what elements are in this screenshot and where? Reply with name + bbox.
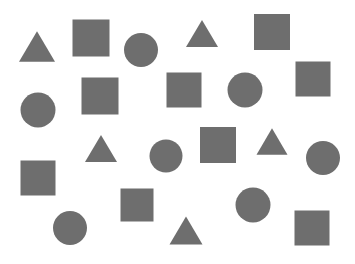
square-shape [254,14,290,50]
circle-shape [53,211,87,245]
triangle-shape [85,135,117,162]
square-shape [167,73,202,108]
circle-shape [236,188,271,223]
square-shape [73,20,110,57]
square-shape [296,62,331,97]
square-shape [21,161,56,196]
square-shape [200,127,236,163]
triangle-shape [19,31,55,62]
square-shape [295,211,330,246]
figure-canvas [0,0,355,264]
circle-shape [306,141,340,175]
circle-shape [228,73,263,108]
circle-shape [124,33,158,67]
shape-scatter-plot [0,0,355,264]
square-shape [121,189,154,222]
triangle-shape [257,128,288,154]
triangle-shape [170,216,203,244]
circle-shape [21,93,56,128]
circle-shape [150,140,183,173]
triangle-shape [186,20,218,47]
square-shape [82,78,119,115]
